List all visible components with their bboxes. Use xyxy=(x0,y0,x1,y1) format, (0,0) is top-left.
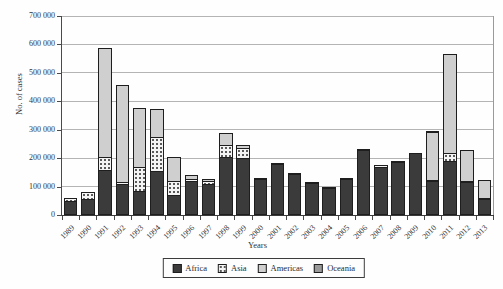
x-axis-tick xyxy=(183,216,184,220)
x-axis-tick xyxy=(407,216,408,220)
legend-swatch-oceania xyxy=(314,264,323,273)
x-axis-tick xyxy=(131,216,132,220)
bar-segment-africa-2005 xyxy=(340,179,354,215)
bar-segment-africa-2002 xyxy=(288,174,302,215)
bar-2001 xyxy=(271,164,285,215)
bar-1989 xyxy=(64,199,78,215)
bar-segment-africa-2009 xyxy=(409,153,423,215)
x-axis-tick xyxy=(355,216,356,220)
y-tick-label: 400 000 xyxy=(3,97,55,105)
gridline xyxy=(62,16,493,17)
y-tick-label: 0 xyxy=(3,211,55,219)
bar-segment-africa-2007 xyxy=(374,167,388,215)
x-axis-tick xyxy=(390,216,391,220)
legend-label-americas: Americas xyxy=(271,263,304,273)
bar-segment-africa-2000 xyxy=(254,179,268,215)
bar-segment-americas-1991 xyxy=(98,48,112,158)
bar-1996 xyxy=(185,176,199,215)
x-axis-tick xyxy=(459,216,460,220)
legend-item-asia: Asia xyxy=(218,263,247,273)
bar-segment-africa-1993 xyxy=(133,191,147,215)
x-axis-tick xyxy=(96,216,97,220)
stacked-bar-chart-figure: No. of cases 0100 000200 000300 000400 0… xyxy=(0,0,503,289)
bar-segment-asia-1994 xyxy=(150,137,164,172)
x-axis-tick xyxy=(62,216,63,220)
legend-label-oceania: Oceania xyxy=(327,263,355,273)
bar-1992 xyxy=(116,86,130,215)
x-axis-tick xyxy=(338,216,339,220)
legend-item-americas: Americas xyxy=(258,263,304,273)
x-axis-tick xyxy=(217,216,218,220)
y-tick-label: 100 000 xyxy=(3,183,55,191)
y-tick-label: 500 000 xyxy=(3,69,55,77)
x-axis-tick xyxy=(441,216,442,220)
y-axis-tick xyxy=(57,187,62,188)
bar-2003 xyxy=(305,183,319,215)
bar-segment-africa-2011 xyxy=(443,161,457,215)
bar-segment-africa-2001 xyxy=(271,164,285,215)
bar-2005 xyxy=(340,179,354,215)
bar-segment-africa-1989 xyxy=(64,201,78,215)
legend-swatch-americas xyxy=(258,264,267,273)
bar-1990 xyxy=(81,193,95,215)
bar-segment-africa-2013 xyxy=(478,199,492,215)
bar-segment-americas-1993 xyxy=(133,108,147,169)
bar-segment-africa-2008 xyxy=(391,162,405,215)
bar-1998 xyxy=(219,134,233,215)
bar-segment-africa-2010 xyxy=(426,181,440,215)
legend-label-asia: Asia xyxy=(231,263,247,273)
y-tick-label: 600 000 xyxy=(3,40,55,48)
bar-segment-asia-1995 xyxy=(167,181,181,195)
bar-1999 xyxy=(236,146,250,215)
legend-label-africa: Africa xyxy=(185,263,207,273)
bar-segment-africa-1992 xyxy=(116,184,130,215)
legend-item-oceania: Oceania xyxy=(314,263,355,273)
bar-2002 xyxy=(288,174,302,215)
bar-segment-africa-1994 xyxy=(150,171,164,215)
x-axis-tick xyxy=(372,216,373,220)
bar-segment-africa-2004 xyxy=(322,188,336,215)
bar-segment-africa-1999 xyxy=(236,158,250,215)
bar-segment-americas-2012 xyxy=(460,150,474,182)
bar-2010 xyxy=(426,132,440,215)
bar-segment-africa-2006 xyxy=(357,150,371,215)
bar-1995 xyxy=(167,158,181,215)
x-axis-tick xyxy=(165,216,166,220)
x-axis-tick xyxy=(303,216,304,220)
plot-area xyxy=(62,16,493,215)
y-axis-tick xyxy=(57,73,62,74)
x-axis-tick xyxy=(234,216,235,220)
bar-segment-africa-2003 xyxy=(305,183,319,215)
bar-2006 xyxy=(357,150,371,215)
bar-segment-americas-2011 xyxy=(443,54,457,154)
legend: AfricaAsiaAmericasOceania xyxy=(162,258,365,278)
bar-2009 xyxy=(409,154,423,215)
bar-segment-africa-2012 xyxy=(460,182,474,215)
y-axis-title: No. of cases xyxy=(14,73,24,115)
bar-segment-americas-1992 xyxy=(116,85,130,183)
bar-2007 xyxy=(374,166,388,215)
x-axis-tick xyxy=(200,216,201,220)
bar-segment-africa-1991 xyxy=(98,170,112,215)
bar-segment-africa-1996 xyxy=(185,181,199,215)
bar-2000 xyxy=(254,179,268,215)
x-axis-tick xyxy=(269,216,270,220)
x-axis-tick xyxy=(476,216,477,220)
bar-1994 xyxy=(150,110,164,215)
bar-2012 xyxy=(460,151,474,215)
legend-swatch-africa xyxy=(172,264,181,273)
bar-segment-americas-2013 xyxy=(478,180,492,199)
legend-swatch-asia xyxy=(218,264,227,273)
legend-item-africa: Africa xyxy=(172,263,207,273)
y-tick-label: 700 000 xyxy=(3,12,55,20)
x-axis-tick xyxy=(321,216,322,220)
x-axis-line xyxy=(61,215,494,216)
y-axis-tick xyxy=(57,101,62,102)
bar-segment-asia-1991 xyxy=(98,157,112,171)
x-axis-tick xyxy=(79,216,80,220)
y-axis-tick xyxy=(57,44,62,45)
bar-2011 xyxy=(443,55,457,215)
x-axis-title: Years xyxy=(248,240,267,250)
gridline xyxy=(62,44,493,45)
y-tick-label: 200 000 xyxy=(3,154,55,162)
